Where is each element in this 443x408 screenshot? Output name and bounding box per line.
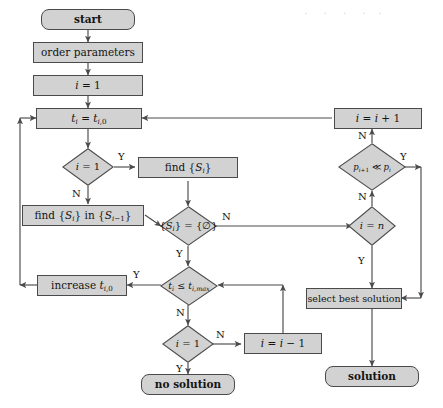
edge-label-pressure-no-down: N [358, 192, 367, 202]
node-find-set: find {Si} [138, 157, 238, 178]
edge-label-time-limit-no: N [176, 308, 185, 318]
edge-label-set-empty-no: N [222, 212, 231, 222]
node-solution: solution [325, 366, 419, 387]
node-select-best-solution-label: select best solution [307, 294, 400, 304]
node-decide-i-is-n: i = n [348, 206, 396, 246]
node-decide-i-is-n-label: i = n [360, 221, 384, 231]
node-order-parameters: order parameters [33, 42, 143, 63]
node-solution-label: solution [348, 371, 396, 382]
node-i-init: i = 1 [33, 75, 143, 96]
node-decide-set-empty-label: {Si} = {∅} [159, 221, 217, 231]
node-decrement-i: i = i − 1 [244, 333, 322, 354]
node-decide-set-empty: {Si} = {∅} [160, 206, 217, 246]
node-t-init-label: ti = ti,0 [71, 113, 106, 124]
node-find-set-in-prev-label: find {Si} in {Si−1} [35, 210, 132, 221]
edge-label-time-limit-yes: Y [133, 270, 140, 280]
edge-label-first-iteration-no: N [72, 189, 81, 199]
node-increment-i-label: i = i + 1 [356, 113, 400, 124]
edge-label-i-is-n-yes: Y [358, 256, 365, 266]
node-increment-i: i = i + 1 [334, 108, 422, 129]
node-decide-first-iteration: i = 1 [62, 148, 114, 186]
node-no-solution: no solution [141, 374, 235, 395]
edge-label-i-is-one-yes: Y [176, 364, 183, 374]
edge-label-pressure-no-up: N [358, 131, 367, 141]
edge-label-pressure-yes: Y [400, 152, 407, 162]
edge-label-i-is-one-no: N [216, 330, 225, 340]
node-increase-t-label: increase ti,0 [51, 280, 113, 291]
node-decide-first-iteration-label: i = 1 [76, 162, 100, 172]
flowchart-figure: . . . . . [0, 0, 443, 408]
node-select-best-solution: select best solution [306, 288, 402, 309]
node-decide-pressure: pi+1 ≪ pi [338, 143, 406, 191]
node-decide-time-limit: ti ≤ ti,max [160, 266, 218, 306]
edge-label-set-empty-yes: Y [176, 249, 183, 259]
edge-label-first-iteration-yes: Y [118, 152, 125, 162]
node-no-solution-label: no solution [155, 379, 221, 390]
node-decide-i-is-one-label: i = 1 [176, 339, 200, 349]
node-i-init-label: i = 1 [75, 80, 101, 91]
node-increase-t: increase ti,0 [37, 275, 127, 296]
node-find-set-label: find {Si} [165, 162, 212, 173]
node-decide-pressure-label: pi+1 ≪ pi [353, 163, 391, 172]
node-decide-time-limit-label: ti ≤ ti,max [168, 281, 209, 291]
node-start-label: start [74, 14, 102, 25]
node-find-set-in-prev: find {Si} in {Si−1} [22, 205, 144, 226]
node-decide-i-is-one: i = 1 [162, 325, 214, 363]
node-t-init: ti = ti,0 [36, 108, 142, 129]
node-order-parameters-label: order parameters [41, 47, 135, 58]
node-decrement-i-label: i = i − 1 [261, 338, 305, 349]
node-start: start [41, 9, 135, 30]
